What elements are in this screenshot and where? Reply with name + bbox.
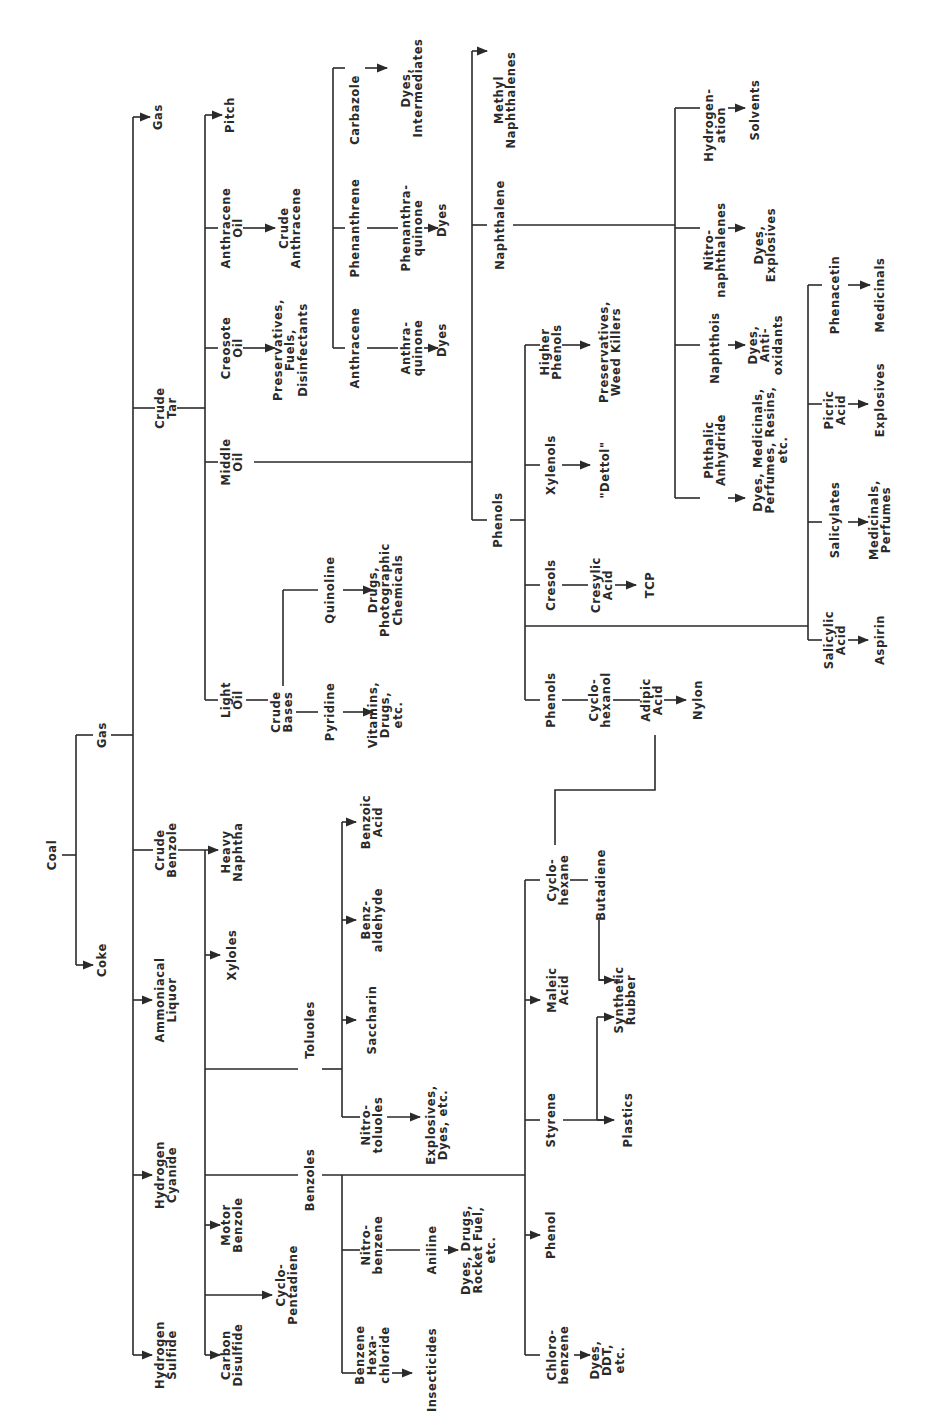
svg-text:Saccharin: Saccharin	[365, 986, 379, 1055]
node-coal: Coal	[45, 840, 59, 870]
svg-text:MethylNaphthalenes: MethylNaphthalenes	[492, 51, 519, 148]
svg-text:Benzoles: Benzoles	[303, 1149, 317, 1212]
node-medicinals: Medicinals	[873, 258, 887, 333]
node-gas1: Gas	[95, 722, 109, 748]
node-nitronaph: Nitro-naphthalenes	[702, 202, 729, 298]
svg-text:Dyes: Dyes	[435, 323, 449, 357]
node-salicylic: SalicylicAcid	[822, 611, 849, 669]
svg-text:Dyes,DDT,etc.: Dyes,DDT,etc.	[588, 1340, 627, 1379]
svg-text:Gas: Gas	[95, 722, 109, 748]
svg-text:Medicinals,Perfumes: Medicinals,Perfumes	[867, 480, 894, 560]
svg-text:Phenanthra-quinone: Phenanthra-quinone	[399, 184, 426, 271]
node-crude-tar: CrudeTar	[153, 387, 180, 428]
node-dyes-intermediates: Dyes,Intermediates	[399, 38, 426, 137]
svg-text:Benz-aldehyde: Benz-aldehyde	[359, 888, 386, 952]
node-dyes-antiox: Dyes,Anti-oxidants	[746, 315, 785, 376]
svg-text:Phenanthrene: Phenanthrene	[348, 179, 362, 278]
svg-text:Gas: Gas	[151, 104, 165, 130]
svg-text:Solvents: Solvents	[748, 80, 762, 141]
node-dyes-b: Dyes	[435, 323, 449, 357]
svg-text:Plastics: Plastics	[621, 1093, 635, 1148]
node-pres-weed: Preservatives,Weed Killers	[597, 301, 624, 403]
node-phenanthraquinone: Phenanthra-quinone	[399, 184, 426, 271]
node-benzaldehyde: Benz-aldehyde	[359, 888, 386, 952]
svg-text:MaleicAcid: MaleicAcid	[545, 967, 572, 1012]
node-benzene-hexa: BenzeneHexa-chloride	[353, 1325, 392, 1384]
node-toluoles: Toluoles	[303, 1001, 317, 1059]
node-pyridine: Pyridine	[323, 683, 337, 742]
node-cyclopentadiene: Cyclo-Pentadiene	[274, 1245, 301, 1325]
svg-text:Drugs,PhotographicChemicals: Drugs,PhotographicChemicals	[366, 543, 405, 637]
node-cyclohexanol: Cyclo-hexanol	[587, 672, 614, 727]
node-phenol: Phenol	[544, 1211, 558, 1259]
svg-text:AdipicAcid: AdipicAcid	[639, 678, 666, 722]
node-phthalic: PhthalicAnhydride	[702, 414, 729, 486]
svg-text:Hydrogen-ation: Hydrogen-ation	[702, 88, 729, 161]
svg-text:Toluoles: Toluoles	[303, 1001, 317, 1059]
node-dyes-explosives: Dyes,Explosives	[752, 208, 779, 282]
svg-text:SalicylicAcid: SalicylicAcid	[822, 611, 849, 669]
node-naphthois: Naphthois	[708, 312, 722, 384]
node-ammoniacal: AmmoniacalLiquor	[153, 957, 180, 1042]
svg-text:HeavyNaphtha: HeavyNaphtha	[219, 822, 246, 881]
node-dyes-med-perf: Dyes, Medicinals,Perfumes, Resins,etc.	[751, 386, 790, 513]
node-explosives2: Explosives	[873, 363, 887, 437]
node-aspirin: Aspirin	[873, 615, 887, 665]
node-nitrotoluoles: Nitro-toluoles	[359, 1097, 386, 1154]
node-picric: PicricAcid	[822, 390, 849, 429]
node-nitrobenzene: Nitro-benzene	[359, 1216, 386, 1275]
svg-text:Explosives,Dyes, etc.: Explosives,Dyes, etc.	[424, 1085, 451, 1164]
svg-text:MiddleOil: MiddleOil	[219, 438, 246, 485]
node-synthetic-rubber: SyntheticRubber	[612, 966, 639, 1033]
svg-text:Coke: Coke	[95, 943, 109, 977]
node-higher-phenols: HigherPhenols	[538, 324, 565, 380]
svg-text:Insecticides: Insecticides	[425, 1328, 439, 1412]
svg-text:HydrogenCyanide: HydrogenCyanide	[153, 1141, 180, 1209]
node-cresylic: CresylicAcid	[589, 557, 616, 613]
svg-text:"Dettol": "Dettol"	[598, 442, 612, 499]
svg-text:Dyes, Medicinals,Perfumes, Res: Dyes, Medicinals,Perfumes, Resins,etc.	[751, 386, 790, 513]
svg-text:Cyclo-Pentadiene: Cyclo-Pentadiene	[274, 1245, 301, 1325]
node-creosote: CreosoteOil	[219, 317, 246, 380]
svg-text:Cyclo-hexane: Cyclo-hexane	[545, 855, 572, 906]
diagram-canvas: CoalGasCokeGasCrudeTarCrudeBenzoleAmmoni…	[0, 0, 927, 1412]
svg-text:Phenol: Phenol	[544, 1211, 558, 1259]
svg-text:Phenacetin: Phenacetin	[828, 256, 842, 335]
svg-text:Pitch: Pitch	[223, 97, 237, 133]
node-motor-benzole: MotorBenzole	[219, 1197, 246, 1252]
svg-text:Chloro-benzene: Chloro-benzene	[545, 1326, 572, 1385]
svg-text:Anthracene: Anthracene	[348, 308, 362, 389]
node-drugs-photo: Drugs,PhotographicChemicals	[366, 543, 405, 637]
svg-text:Carbazole: Carbazole	[348, 75, 362, 145]
node-phenanthrene: Phenanthrene	[348, 179, 362, 278]
svg-text:Medicinals: Medicinals	[873, 258, 887, 333]
svg-text:Dyes,Intermediates: Dyes,Intermediates	[399, 38, 426, 137]
svg-text:Coal: Coal	[45, 840, 59, 870]
node-middle-oil: MiddleOil	[219, 438, 246, 485]
svg-text:HigherPhenols: HigherPhenols	[538, 324, 565, 380]
svg-text:AmmoniacalLiquor: AmmoniacalLiquor	[153, 957, 180, 1042]
svg-text:PicricAcid: PicricAcid	[822, 390, 849, 429]
node-anthraquinone: Anthra-quinone	[399, 320, 426, 377]
node-solvents: Solvents	[748, 80, 762, 141]
node-crude-bases: CrudeBases	[269, 691, 296, 732]
svg-text:CrudeAnthracene: CrudeAnthracene	[277, 188, 304, 269]
svg-text:BenzoicAcid: BenzoicAcid	[359, 795, 386, 849]
svg-text:Butadiene: Butadiene	[594, 849, 608, 921]
node-plastics: Plastics	[621, 1093, 635, 1148]
svg-text:Phenols: Phenols	[544, 672, 558, 728]
node-gas2: Gas	[151, 104, 165, 130]
svg-text:AnthraceneOil: AnthraceneOil	[219, 188, 246, 269]
node-crude-anthracene: CrudeAnthracene	[277, 188, 304, 269]
node-med-perfumes: Medicinals,Perfumes	[867, 480, 894, 560]
node-vitamins: Vitamins,Drugs,etc.	[366, 682, 405, 749]
svg-text:Explosives: Explosives	[873, 363, 887, 437]
svg-text:Nylon: Nylon	[691, 680, 705, 720]
node-labels: CoalGasCokeGasCrudeTarCrudeBenzoleAmmoni…	[45, 38, 893, 1412]
svg-text:HydrogenSulfide: HydrogenSulfide	[153, 1321, 180, 1389]
svg-text:CrudeBases: CrudeBases	[269, 691, 296, 732]
svg-text:Cyclo-hexanol: Cyclo-hexanol	[587, 672, 614, 727]
svg-text:Nitro-toluoles: Nitro-toluoles	[359, 1097, 386, 1154]
node-heavy-naphtha: HeavyNaphtha	[219, 822, 246, 881]
node-saccharin: Saccharin	[365, 986, 379, 1055]
